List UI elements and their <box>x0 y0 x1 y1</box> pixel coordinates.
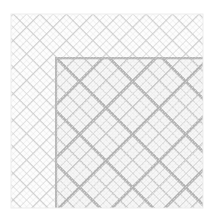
plot-area <box>11 14 203 208</box>
plot-speckle <box>11 14 203 208</box>
pattern-canvas: Recursive diagonal plaid pattern <box>0 0 215 219</box>
fractal-plaid-figure: Recursive diagonal plaid pattern <box>0 0 215 219</box>
